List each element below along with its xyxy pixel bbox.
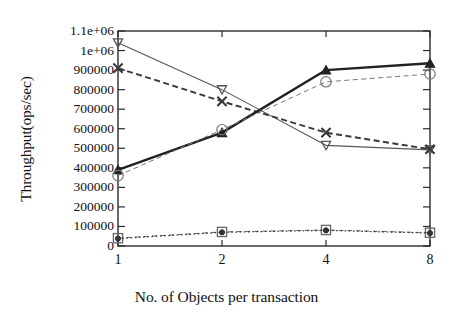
series-series-square bbox=[113, 225, 434, 242]
data-point-marker bbox=[323, 228, 328, 233]
data-point-marker bbox=[219, 230, 224, 235]
chart-container: Throughput(ops/sec) No. of Objects per t… bbox=[0, 0, 453, 324]
data-point-marker bbox=[217, 97, 226, 106]
plot-area bbox=[0, 0, 453, 324]
data-point-marker bbox=[427, 231, 432, 236]
series-series-filled-circle bbox=[115, 228, 432, 241]
series-series-cross bbox=[113, 64, 434, 154]
series-series-down-triangle bbox=[113, 39, 434, 154]
data-series-group bbox=[113, 39, 435, 243]
series-series-circle bbox=[113, 69, 435, 181]
data-point-marker bbox=[115, 236, 120, 241]
